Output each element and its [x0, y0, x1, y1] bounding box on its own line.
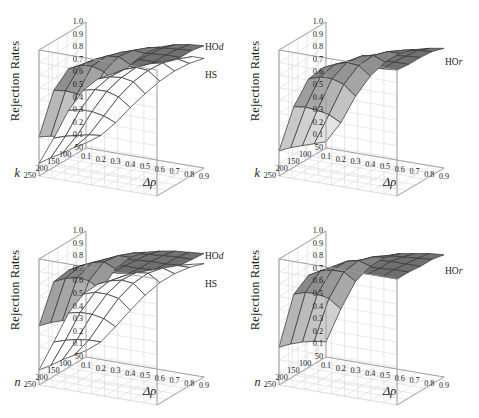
x-axis-tick: 0.3	[108, 366, 124, 375]
z-axis-tick: 0.7	[61, 264, 83, 273]
y-axis-label-text: Rejection Rates	[248, 235, 263, 345]
x-axis-tick: 0.5	[137, 162, 153, 171]
y-axis-label-text: Rejection Rates	[8, 235, 23, 345]
x-axis-tick: 0.7	[407, 167, 423, 176]
x-axis-tick: 0.6	[152, 165, 168, 174]
z-axis-tick: 0.3	[301, 314, 323, 323]
x-axis-tick: 0.8	[181, 379, 197, 388]
z-axis-tick: 1.0	[301, 17, 323, 26]
x-axis-tick: 0.4	[122, 369, 138, 378]
x-axis-name: Δρ	[143, 175, 156, 190]
surface-label: HOd	[205, 42, 223, 52]
x-axis-tick: 0.4	[362, 369, 378, 378]
surface-label: HOr	[445, 57, 462, 67]
surface-label-subscript: r	[459, 266, 463, 276]
y-axis-label: Rejection Rates	[8, 125, 22, 235]
x-axis-tick: 0.6	[152, 374, 168, 383]
z-axis-tick: 0.4	[301, 302, 323, 311]
x-axis-tick: 0.9	[196, 381, 212, 390]
x-axis-tick: 0.5	[377, 162, 393, 171]
x-axis-tick: 0.1	[78, 361, 94, 370]
surface-label: HOd	[205, 251, 223, 261]
z-axis-tick: 0.1	[301, 130, 323, 139]
z-axis-tick: 0.4	[61, 302, 83, 311]
surface-label-base: HS	[205, 70, 217, 80]
z-axis-tick: 0.3	[61, 105, 83, 114]
z-axis-tick: 0.9	[301, 30, 323, 39]
x-axis-tick: 0.9	[436, 381, 452, 390]
z-axis-tick: 0.8	[301, 42, 323, 51]
surface-label: HOr	[445, 266, 462, 276]
x-axis-tick: 0.5	[137, 371, 153, 380]
y-axis-label: Rejection Rates	[248, 0, 262, 26]
x-axis-tick: 0.5	[377, 371, 393, 380]
depth-axis-tick: 50	[303, 143, 323, 152]
surface-label-base: HO	[445, 57, 459, 67]
z-axis-tick: 0.4	[61, 93, 83, 102]
x-axis-tick: 0.3	[348, 157, 364, 166]
x-axis-tick: 0.6	[392, 374, 408, 383]
z-axis-tick: 0.7	[61, 55, 83, 64]
x-axis-tick: 0.2	[93, 155, 109, 164]
z-axis-tick: 0.9	[61, 239, 83, 248]
z-axis-tick: 0.1	[61, 339, 83, 348]
x-axis-tick: 0.1	[318, 152, 334, 161]
z-axis-tick: 0.8	[61, 42, 83, 51]
panel-top-right: Rejection Rates1.00.90.80.70.60.50.40.30…	[240, 0, 479, 209]
surface-label-subscript: d	[219, 251, 224, 261]
y-axis-label: Rejection Rates	[8, 0, 22, 26]
x-axis-tick: 0.4	[122, 160, 138, 169]
z-axis-tick: 0.8	[301, 251, 323, 260]
x-axis-tick: 0.4	[362, 160, 378, 169]
z-axis-tick: 0.2	[61, 327, 83, 336]
panel-bottom-right: Rejection Rates1.00.90.80.70.60.50.40.30…	[240, 209, 479, 418]
depth-axis-name: n	[255, 375, 261, 390]
x-axis-name: Δρ	[383, 384, 396, 399]
surface-label-base: HO	[205, 251, 219, 261]
z-axis-tick: 0.1	[61, 130, 83, 139]
depth-axis-name: n	[15, 375, 21, 390]
z-axis-tick: 0.6	[61, 67, 83, 76]
x-axis-tick: 0.9	[196, 172, 212, 181]
x-axis-tick: 0.7	[407, 376, 423, 385]
z-axis-tick: 0.6	[61, 276, 83, 285]
x-axis-name: Δρ	[143, 384, 156, 399]
y-axis-label-text: Rejection Rates	[248, 26, 263, 136]
z-axis-tick: 0.7	[301, 264, 323, 273]
panel-bottom-left: Rejection Rates1.00.90.80.70.60.50.40.30…	[0, 209, 239, 418]
z-axis-tick: 0.3	[61, 314, 83, 323]
x-axis-tick: 0.8	[421, 379, 437, 388]
z-axis-tick: 0.1	[301, 339, 323, 348]
z-axis-tick: 0.5	[61, 289, 83, 298]
y-axis-label: Rejection Rates	[248, 125, 262, 235]
z-axis-tick: 1.0	[61, 226, 83, 235]
x-axis-name: Δρ	[383, 175, 396, 190]
x-axis-tick: 0.8	[181, 170, 197, 179]
z-axis-tick: 0.2	[301, 327, 323, 336]
surface-label-base: HO	[445, 266, 459, 276]
surface-label-subscript: r	[459, 57, 463, 67]
surface-label-base: HO	[205, 42, 219, 52]
z-axis-tick: 0.6	[301, 276, 323, 285]
surface-label-subscript: d	[219, 42, 224, 52]
x-axis-tick: 0.7	[167, 167, 183, 176]
depth-axis-tick: 50	[303, 352, 323, 361]
x-axis-tick: 0.3	[108, 157, 124, 166]
z-axis-tick: 0.9	[61, 30, 83, 39]
z-axis-tick: 0.7	[301, 55, 323, 64]
surface-label: HS	[205, 279, 217, 289]
x-axis-tick: 0.2	[333, 364, 349, 373]
x-axis-tick: 0.3	[348, 366, 364, 375]
z-axis-tick: 0.5	[301, 80, 323, 89]
x-axis-tick: 0.6	[392, 165, 408, 174]
z-axis-tick: 0.4	[301, 93, 323, 102]
z-axis-tick: 1.0	[301, 226, 323, 235]
x-axis-tick: 0.7	[167, 376, 183, 385]
surface-label-base: HS	[205, 279, 217, 289]
z-axis-tick: 0.2	[61, 118, 83, 127]
z-axis-tick: 0.8	[61, 251, 83, 260]
x-axis-tick: 0.9	[436, 172, 452, 181]
depth-axis-tick: 50	[63, 352, 83, 361]
z-axis-tick: 0.5	[301, 289, 323, 298]
x-axis-tick: 0.2	[93, 364, 109, 373]
